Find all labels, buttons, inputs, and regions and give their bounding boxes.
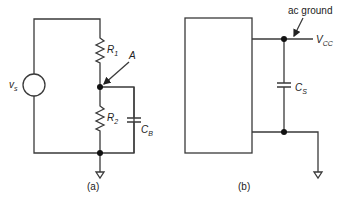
bottom-wire (34, 87, 134, 153)
node-a (97, 84, 103, 90)
node-vcc (281, 36, 287, 42)
ac-ground-pointer (294, 18, 303, 36)
resistor-r2-icon (96, 87, 104, 172)
resistor-r1-icon (96, 35, 104, 87)
node-a-pointer (104, 62, 129, 84)
node-bottom (97, 150, 103, 156)
r1-label: R1 (107, 44, 118, 57)
ground-wire (252, 132, 318, 172)
ac-ground-label: ac ground (288, 5, 332, 16)
source-label: vs (9, 79, 18, 92)
figure-a: vs R1 R2 A CB (a) (9, 19, 153, 192)
vcc-label: VCC (316, 34, 334, 47)
ground-icon (96, 172, 104, 178)
caption-b: (b) (238, 181, 250, 192)
r2-label: R2 (107, 112, 118, 125)
capacitor-cs-icon (277, 39, 291, 132)
node-a-label: A (128, 50, 136, 61)
circuit-diagram: vs R1 R2 A CB (a) ac ground VCC CS (b) (0, 0, 349, 203)
cb-label: CB (141, 124, 153, 137)
cs-label: CS (295, 82, 307, 95)
caption-a: (a) (87, 181, 99, 192)
voltage-source-icon (23, 74, 45, 96)
ground-icon (314, 172, 322, 178)
top-wire (34, 19, 100, 74)
circuit-block (185, 18, 252, 153)
node-ground (281, 129, 287, 135)
figure-b: ac ground VCC CS (b) (185, 5, 334, 192)
